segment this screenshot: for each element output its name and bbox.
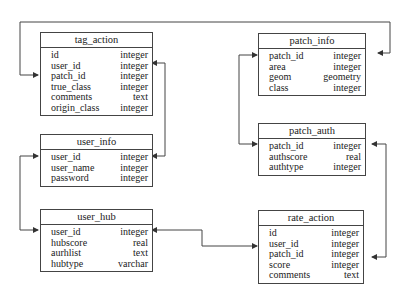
table-row: classinteger (269, 83, 361, 94)
table-row: hubtypevarchar (51, 259, 148, 270)
table-tag-action: tag_action idintegeruser_idintegerpatch_… (40, 32, 153, 116)
table-row: authtypeinteger (269, 162, 361, 173)
table-row: origin_classinteger (51, 103, 148, 114)
table-row: commentstext (269, 270, 359, 281)
table-row: idinteger (269, 228, 359, 239)
table-title: rate_action (259, 211, 363, 226)
table-patch-auth: patch_auth patch_idintegerauthscorereala… (258, 123, 366, 176)
column-name: user_id (51, 152, 120, 163)
column-type: integer (333, 83, 361, 94)
column-type: varchar (118, 259, 148, 270)
table-row: geomgeometry (269, 72, 361, 83)
column-type: geometry (323, 72, 361, 83)
column-name: aurhlist (51, 248, 133, 259)
column-type: integer (120, 71, 148, 82)
column-type: integer (120, 103, 148, 114)
table-row: aurhlisttext (51, 248, 148, 259)
column-name: id (51, 50, 120, 61)
column-name: user_id (51, 227, 120, 238)
column-name: hubtype (51, 259, 118, 270)
column-type: integer (120, 227, 148, 238)
table-title: tag_action (41, 33, 152, 48)
column-name: origin_class (51, 103, 120, 114)
column-type: text (133, 92, 148, 103)
table-row: passwordinteger (51, 173, 148, 184)
table-patch-info: patch_info patch_idintegerareaintegergeo… (258, 33, 366, 96)
column-name: comments (51, 92, 133, 103)
table-title: patch_info (259, 34, 365, 49)
column-name: geom (269, 72, 323, 83)
column-type: integer (331, 228, 359, 239)
table-row: user_idinteger (51, 152, 148, 163)
column-name: patch_id (269, 249, 331, 260)
table-title: user_hub (41, 210, 152, 225)
column-name: patch_id (269, 51, 333, 62)
table-row: user_idinteger (51, 227, 148, 238)
column-name: patch_id (269, 141, 333, 152)
column-type: integer (333, 51, 361, 62)
column-name: comments (269, 270, 344, 281)
column-type: integer (331, 249, 359, 260)
table-title: patch_auth (259, 124, 365, 139)
table-row: patch_idinteger (51, 71, 148, 82)
column-type: integer (120, 50, 148, 61)
table-row: patch_idinteger (269, 51, 361, 62)
column-type: text (344, 270, 359, 281)
table-row: commentstext (51, 92, 148, 103)
column-name: authtype (269, 162, 333, 173)
table-rate-action: rate_action idintegeruser_idintegerpatch… (258, 210, 364, 284)
column-name: class (269, 83, 333, 94)
column-name: password (51, 173, 120, 184)
column-type: integer (120, 173, 148, 184)
table-user-info: user_info user_idintegeruser_nameinteger… (40, 134, 153, 187)
table-row: patch_idinteger (269, 141, 361, 152)
table-row: idinteger (51, 50, 148, 61)
column-type: text (133, 248, 148, 259)
table-user-hub: user_hub user_idintegerhubscorerealaurhl… (40, 209, 153, 272)
column-type: integer (333, 162, 361, 173)
column-name: id (269, 228, 331, 239)
column-type: integer (120, 152, 148, 163)
table-row: patch_idinteger (269, 249, 359, 260)
column-name: patch_id (51, 71, 120, 82)
table-title: user_info (41, 135, 152, 150)
column-type: integer (333, 141, 361, 152)
